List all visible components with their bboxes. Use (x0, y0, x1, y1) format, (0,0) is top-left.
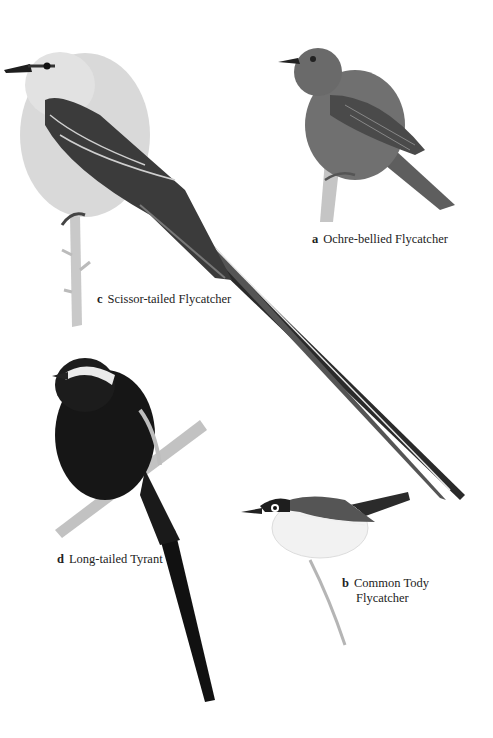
caption-name: Ochre-bellied Flycatcher (323, 232, 448, 246)
long-tailed-tyrant-illustration (52, 358, 215, 702)
caption-letter: a (312, 232, 318, 246)
caption-long-tailed-tyrant: dLong-tailed Tyrant (57, 552, 163, 567)
caption-ochre-bellied-flycatcher: aOchre-bellied Flycatcher (312, 232, 448, 247)
caption-letter: b (342, 576, 349, 590)
caption-letter: d (57, 552, 64, 566)
caption-name-line2: Flycatcher (342, 591, 429, 606)
caption-name: Scissor-tailed Flycatcher (108, 292, 232, 306)
common-tody-flycatcher-illustration (241, 492, 410, 645)
caption-scissor-tailed-flycatcher: cScissor-tailed Flycatcher (97, 292, 231, 307)
ochre-bellied-flycatcher-illustration (278, 48, 455, 222)
bird-illustrations (0, 0, 493, 738)
caption-name: Long-tailed Tyrant (69, 552, 163, 566)
illustration-plate: aOchre-bellied Flycatcher cScissor-taile… (0, 0, 493, 738)
caption-letter: c (97, 292, 103, 306)
caption-name: Common Tody (354, 576, 429, 590)
caption-common-tody-flycatcher: bCommon Tody Flycatcher (342, 576, 429, 606)
